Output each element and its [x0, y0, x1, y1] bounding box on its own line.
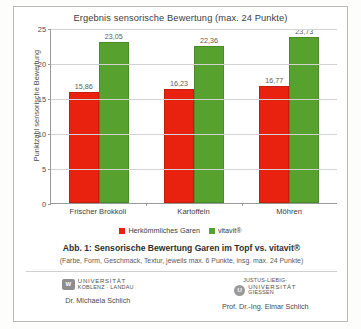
gridline — [51, 29, 337, 30]
bar-value-label: 23,05 — [105, 32, 123, 41]
x-tick-mark — [146, 203, 147, 206]
y-tick-label: 20 — [22, 60, 46, 69]
bar-groups: 15,8623,0516,2322,3616,7723,73 — [51, 29, 337, 203]
y-axis-ticks: 0510152025 — [22, 29, 46, 204]
bar: 22,36 — [194, 46, 224, 203]
legend-item: Herkömmliches Garen — [119, 226, 200, 235]
bar-group: 16,7723,73 — [242, 29, 337, 203]
chart-legend: Herkömmliches Garenvitavit® — [14, 226, 347, 235]
gridline — [51, 99, 337, 100]
figure-frame: Ergebnis sensorische Bewertung (max. 24 … — [13, 6, 348, 322]
x-axis-category-label: Möhren — [241, 207, 337, 216]
giessen-logo-row: U UNIVERSITÄT GIESSEN — [234, 284, 296, 296]
bar: 15,86 — [69, 92, 99, 203]
university-crest-icon: W — [62, 279, 75, 290]
legend-label: vitavit® — [218, 226, 242, 235]
figure-caption: Abb. 1: Sensorische Bewertung Garen im T… — [24, 243, 339, 253]
gridline — [51, 169, 337, 170]
x-tick-mark — [242, 203, 243, 206]
bar: 16,23 — [164, 89, 194, 203]
plot-canvas: 15,8623,0516,2322,3616,7723,73 — [50, 29, 337, 204]
y-tick-label: 5 — [22, 165, 46, 174]
y-tick-label: 0 — [22, 200, 46, 209]
figure-subcaption: (Farbe, Form, Geschmack, Textur, jeweils… — [24, 257, 339, 264]
y-tick-label: 10 — [22, 130, 46, 139]
footer-left: W UNIVERSITÄT KOBLENZ · LANDAU Dr. Micha… — [14, 275, 182, 321]
author-name-left: Dr. Michaela Schlich — [65, 296, 130, 305]
x-axis-category-label: Frischer Brokkoli — [50, 207, 146, 216]
legend-color-swatch — [209, 228, 215, 234]
bar-group: 15,8623,05 — [51, 29, 146, 203]
figure-footer: W UNIVERSITÄT KOBLENZ · LANDAU Dr. Micha… — [14, 275, 349, 321]
bar: 23,05 — [99, 42, 129, 203]
y-tick-mark — [48, 134, 51, 135]
y-tick-mark — [48, 29, 51, 30]
university-seal-icon: U — [234, 285, 245, 296]
x-axis-category-label: Kartoffeln — [146, 207, 242, 216]
chart-title: Ergebnis sensorische Bewertung (max. 24 … — [14, 13, 347, 23]
logo-line-2: KOBLENZ · LANDAU — [78, 285, 134, 291]
figure-page: Ergebnis sensorische Bewertung (max. 24 … — [0, 0, 361, 329]
y-tick-mark — [48, 169, 51, 170]
legend-item: vitavit® — [209, 226, 242, 235]
y-tick-mark — [48, 99, 51, 100]
gridline — [51, 64, 337, 65]
bar-value-label: 22,36 — [200, 36, 218, 45]
x-axis-labels: Frischer BrokkoliKartoffelnMöhren — [50, 207, 337, 216]
y-tick-mark — [48, 64, 51, 65]
legend-label: Herkömmliches Garen — [128, 226, 200, 235]
y-tick-mark — [48, 204, 51, 205]
y-tick-label: 15 — [22, 95, 46, 104]
bar: 16,77 — [259, 86, 289, 203]
bar-value-label: 16,23 — [170, 79, 188, 88]
koblenz-landau-logo: W UNIVERSITÄT KOBLENZ · LANDAU — [62, 278, 134, 290]
bar: 23,73 — [289, 37, 319, 203]
author-name-right: Prof. Dr.-Ing. Elmar Schlich — [222, 302, 309, 311]
y-tick-label: 25 — [22, 25, 46, 34]
giessen-logo: JUSTUS-LIEBIG- U UNIVERSITÄT GIESSEN — [234, 278, 296, 296]
logo-line-2: GIESSEN — [248, 290, 296, 296]
legend-color-swatch — [119, 228, 125, 234]
gridline — [51, 134, 337, 135]
footer-right: JUSTUS-LIEBIG- U UNIVERSITÄT GIESSEN Pro… — [182, 275, 350, 321]
bar-group: 16,2322,36 — [146, 29, 241, 203]
koblenz-landau-logo-text: UNIVERSITÄT KOBLENZ · LANDAU — [78, 278, 134, 290]
bar-value-label: 16,77 — [265, 76, 283, 85]
giessen-logo-text: UNIVERSITÄT GIESSEN — [248, 284, 296, 296]
chart-plot-area: Punktzahl sensorische Bewertung 05101520… — [14, 29, 349, 219]
bar-value-label: 15,86 — [75, 82, 93, 91]
footer-divider — [26, 271, 337, 272]
